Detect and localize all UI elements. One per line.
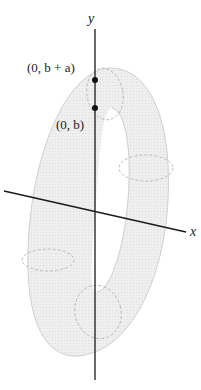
torus-figure: y x (0, b + a) (0, b) xyxy=(0,0,201,390)
point-b-plus-a-dot xyxy=(92,77,98,83)
y-axis-label: y xyxy=(86,11,95,26)
point-b-dot xyxy=(92,105,98,111)
point-b-plus-a-label: (0, b + a) xyxy=(27,60,75,75)
x-axis-label: x xyxy=(189,224,197,239)
point-b-label: (0, b) xyxy=(56,117,84,132)
